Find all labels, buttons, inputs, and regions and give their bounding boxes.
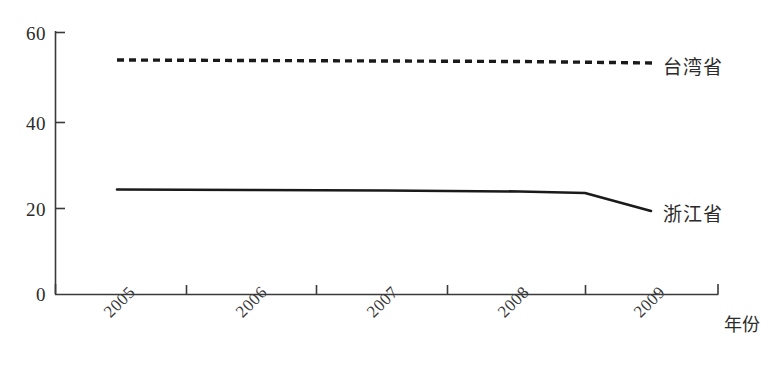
y-tick-label-0: 0 <box>6 285 46 304</box>
series-label-zhejiang: 浙江省 <box>663 199 723 226</box>
y-axis-ticks <box>55 33 65 209</box>
y-tick-label-40: 40 <box>6 114 46 133</box>
y-tick-label-60: 60 <box>6 24 46 43</box>
x-axis-title: 年份 <box>724 310 760 336</box>
series-line-taiwan <box>117 60 655 63</box>
line-chart: 60 40 20 0 2005 2006 2007 2008 2009 年份 台… <box>0 0 783 375</box>
series-line-zhejiang <box>117 190 651 212</box>
series-label-taiwan: 台湾省 <box>663 52 723 79</box>
axes-group <box>55 31 719 295</box>
y-tick-label-20: 20 <box>6 200 46 219</box>
